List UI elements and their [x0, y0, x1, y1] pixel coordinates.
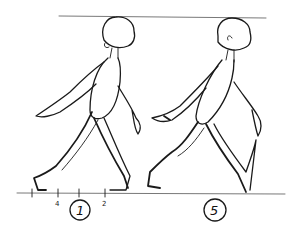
sketch-drawing: 4 2 1 5 — [0, 0, 299, 237]
frame-1-label: 1 — [76, 203, 84, 218]
figure-2 — [148, 18, 261, 192]
tick-label-4: 4 — [55, 200, 60, 208]
ground-line — [17, 193, 285, 194]
walk-cycle-sketch: 4 2 1 5 — [0, 0, 299, 237]
frame-5-label: 5 — [210, 203, 218, 218]
frame-1-marker: 1 — [70, 200, 90, 220]
tick-label-2: 2 — [102, 200, 106, 208]
frame-5-marker: 5 — [204, 199, 226, 221]
figure-1 — [34, 17, 140, 190]
